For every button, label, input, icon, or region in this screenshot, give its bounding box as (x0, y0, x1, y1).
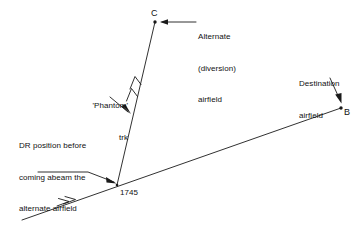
alternate-annotation-line-3: airfield (198, 95, 236, 106)
alternate-leader-arrowhead (160, 19, 168, 25)
phantom-annotation-line-1: 'Phantom' (84, 101, 128, 112)
alternate-airfield-leader (160, 19, 196, 25)
point-label-c: C (151, 8, 158, 18)
alternate-airfield-annotation: Alternate (diversion) airfield (198, 11, 236, 127)
alternate-annotation-line-1: Alternate (198, 32, 236, 43)
phantom-track-annotation: 'Phantom' trk (84, 80, 128, 164)
destination-annotation-line-1: Destination (299, 79, 340, 90)
dr-leader-arrowhead (106, 177, 117, 184)
dr-position-time-label: 1745 (120, 188, 138, 199)
dr-position-annotation: DR position before coming abeam the alte… (19, 120, 86, 234)
dr-annotation-line-2: coming abeam the (19, 173, 86, 184)
phantom-annotation-line-2: trk (84, 133, 128, 144)
dr-annotation-line-1: DR position before (19, 141, 86, 152)
alternate-annotation-line-2: (diversion) (198, 64, 236, 75)
destination-airfield-point-marker (339, 106, 342, 109)
alternate-airfield-point-marker (153, 20, 156, 23)
dr-position-point-marker (116, 184, 119, 187)
navigation-diagram: C B 1745 Alternate (diversion) airfield … (0, 0, 364, 234)
destination-annotation-line-2: airfield (299, 111, 340, 122)
dr-annotation-line-3: alternate airfield (19, 204, 86, 215)
phantom-track-direction-arrowheads (127, 77, 142, 102)
destination-airfield-annotation: Destination airfield (299, 58, 340, 142)
point-label-b: B (344, 107, 350, 117)
